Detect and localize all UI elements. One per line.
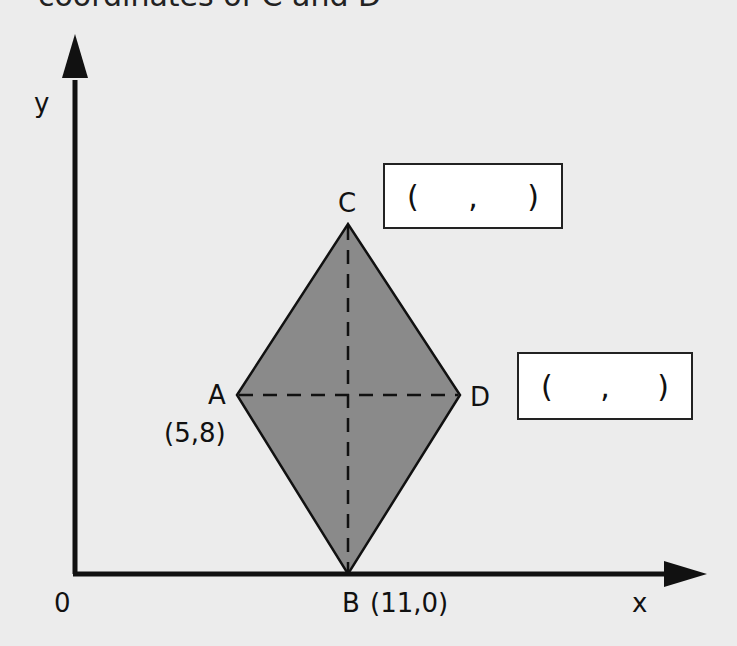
open-paren: ( — [407, 179, 419, 214]
point-b-coord: (11,0) — [370, 590, 448, 616]
point-c-label: C — [338, 190, 356, 216]
point-b-label: B — [342, 590, 360, 616]
origin-label: 0 — [54, 590, 71, 616]
comma: , — [468, 179, 478, 214]
close-paren: ) — [657, 369, 669, 404]
y-axis-arrow-icon — [62, 34, 88, 78]
close-paren: ) — [527, 179, 539, 214]
open-paren: ( — [541, 369, 553, 404]
y-axis-label: y — [34, 90, 49, 116]
x-axis-label: x — [632, 590, 647, 616]
coordinate-diagram — [0, 0, 737, 646]
answer-box-c[interactable]: ( , ) — [383, 163, 563, 229]
x-axis-arrow-icon — [664, 561, 707, 587]
point-a-coord: (5,8) — [164, 420, 226, 446]
point-a-label: A — [208, 382, 226, 408]
point-d-label: D — [470, 384, 490, 410]
comma: , — [600, 369, 610, 404]
answer-box-d[interactable]: ( , ) — [517, 352, 693, 420]
